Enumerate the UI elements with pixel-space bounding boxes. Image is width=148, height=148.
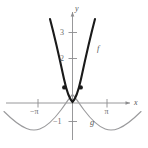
x-axis xyxy=(6,101,130,105)
y-tick-label-2: 2 xyxy=(60,55,64,63)
x-tick-label-pi: π xyxy=(105,108,109,116)
y-tick-label-3: 3 xyxy=(60,29,64,37)
intersection-left-point xyxy=(62,85,66,89)
curve-label-g: g xyxy=(90,118,94,127)
x-tick-label-minus-pi: −π xyxy=(30,108,39,116)
curve-label-f: f xyxy=(97,44,99,53)
x-axis-label: x xyxy=(134,99,138,107)
math-figure: y x 3 2 −1 −π π f g xyxy=(0,0,148,148)
y-axis xyxy=(71,12,75,140)
y-axis-label: y xyxy=(75,5,79,13)
y-tick-label-minus-1: −1 xyxy=(53,118,62,126)
intersection-right-point xyxy=(79,85,83,89)
coordinate-plot xyxy=(0,0,148,148)
